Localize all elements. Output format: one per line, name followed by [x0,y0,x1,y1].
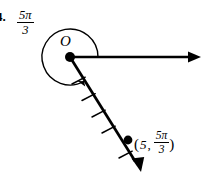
problem-number: 4. [0,10,6,23]
point-label-angle-fraction: 5π 3 [154,129,170,157]
plotted-point-dot [124,136,133,145]
point-label-angle-denominator: 3 [154,143,170,157]
tick-mark [92,110,105,117]
angle-measure-denominator: 3 [17,23,34,38]
angle-measure-fraction: 5π 3 [17,8,34,38]
tick-mark [82,94,95,101]
tick-mark [102,126,115,133]
terminal-ray-tick-marks [72,77,132,158]
point-label-close-paren: ) [169,137,174,152]
angle-measure-numerator: 5π [17,8,34,23]
origin-vertex-dot [65,52,75,62]
polar-coordinate-figure: 4. 5π 3 O ( 5 , 5π 3 ) [0,0,203,174]
origin-label: O [60,34,71,49]
angle-measure-label: 5π 3 [17,9,34,39]
initial-side-arrowhead-icon [188,52,201,63]
initial-side-ray-group [70,52,201,63]
point-label-radius: 5 [139,138,148,151]
point-coordinate-label: ( 5 , 5π 3 ) [134,130,174,158]
terminal-side-ray [70,57,135,161]
terminal-side-arrowhead-icon [132,157,145,172]
point-label-angle-numerator: 5π [154,129,170,143]
